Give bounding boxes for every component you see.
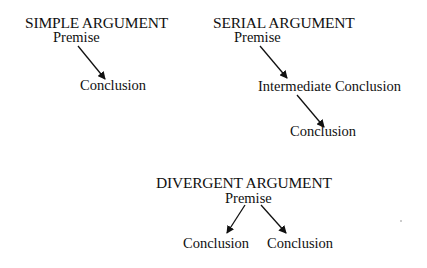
scan-speck (400, 220, 402, 222)
serial-conclusion: Conclusion (290, 124, 356, 139)
divergent-conclusion-left: Conclusion (183, 236, 249, 251)
simple-premise: Premise (53, 30, 100, 45)
simple-arrow (78, 46, 105, 79)
divergent-conclusion-right: Conclusion (267, 236, 333, 251)
divergent-arrow-left (227, 205, 245, 233)
divergent-arrow-right (261, 205, 286, 233)
serial-premise: Premise (234, 30, 281, 45)
divergent-title: DIVERGENT ARGUMENT (156, 175, 332, 191)
divergent-premise: Premise (225, 191, 272, 206)
simple-conclusion: Conclusion (80, 78, 146, 93)
serial-arrow-1 (260, 46, 287, 78)
serial-intermediate-conclusion: Intermediate Conclusion (258, 79, 401, 94)
